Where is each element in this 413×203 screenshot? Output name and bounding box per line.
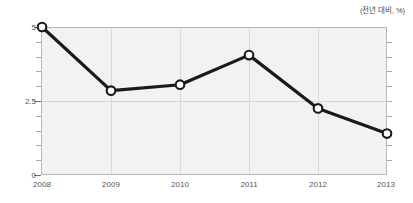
gridline-x-2011 [249, 28, 250, 174]
y-tick-minor-4.0 [36, 57, 41, 58]
gridline-y-2.5 [42, 101, 386, 102]
x-axis-label-2011: 2011 [240, 180, 257, 189]
y-tick-minor-1.0 [36, 145, 41, 146]
plot-area [41, 27, 387, 175]
gridline-x-2009 [111, 28, 112, 174]
y-tick-minor-3.5 [36, 71, 41, 72]
y-tick-minor-1.5 [36, 131, 41, 132]
y-tick-minor-3.0 [36, 86, 41, 87]
y-tick-right-minor-1.0 [387, 145, 392, 146]
y-tick-right-major-2.5 [387, 101, 392, 102]
y-axis-label-5: 5 [32, 23, 36, 32]
y-axis-label-0: 0 [32, 171, 36, 180]
y-tick-right-minor-3.5 [387, 71, 392, 72]
y-tick-right-minor-4.5 [387, 42, 392, 43]
y-tick-right-minor-2.0 [387, 116, 392, 117]
gridline-x-2010 [180, 28, 181, 174]
line-chart-figure: (전년 대비, %) 5 2.5 0 2008 2009 2010 2011 2… [0, 0, 413, 203]
gridline-x-2012 [318, 28, 319, 174]
y-tick-right-minor-4.0 [387, 57, 392, 58]
x-axis-label-2012: 2012 [309, 180, 327, 189]
x-axis-label-2008: 2008 [33, 180, 51, 189]
x-axis-label-2013: 2013 [377, 180, 395, 189]
x-axis-label-2009: 2009 [102, 180, 120, 189]
y-tick-minor-4.5 [36, 42, 41, 43]
unit-caption: (전년 대비, %) [360, 4, 405, 15]
y-tick-right-minor-1.5 [387, 131, 392, 132]
y-tick-minor-2.0 [36, 116, 41, 117]
y-tick-minor-0.5 [36, 160, 41, 161]
y-tick-right-minor-0.5 [387, 160, 392, 161]
y-axis-label-2.5: 2.5 [25, 97, 36, 106]
y-tick-right-minor-3.0 [387, 86, 392, 87]
x-axis-label-2010: 2010 [171, 180, 189, 189]
